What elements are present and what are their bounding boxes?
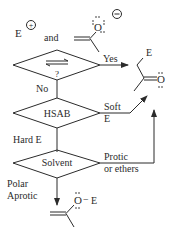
o-product-e: E: [91, 195, 97, 206]
enolate-oxygen: O: [94, 21, 102, 33]
hsab-label: HSAB: [44, 108, 71, 119]
plus-charge-sign: +: [29, 21, 34, 30]
no-label: No: [36, 83, 48, 94]
hard-e-label: Hard E: [13, 134, 42, 145]
flowchart: E + and O ? Yes No E O: [0, 0, 179, 230]
decision-hsab: HSAB: [13, 98, 100, 128]
soft-e-label: E: [104, 113, 110, 124]
enolate-structure: O: [74, 10, 122, 53]
o-product-oxygen: O: [74, 194, 82, 206]
soft-label: Soft: [104, 101, 121, 112]
or-ethers-label: or ethers: [104, 163, 139, 174]
protic-label: Protic: [104, 151, 128, 162]
decision-equilibrium: ?: [13, 50, 100, 80]
o-e-bond: −: [83, 194, 89, 205]
c-alkylation-product: E O: [134, 47, 165, 91]
electrophile: E +: [15, 21, 36, 40]
c-product-oxygen: O: [157, 73, 165, 85]
decision-solvent: Solvent: [13, 150, 100, 178]
yes-label: Yes: [103, 53, 118, 64]
and-label: and: [44, 32, 58, 43]
electrophile-label: E: [15, 27, 22, 39]
solvent-label: Solvent: [42, 157, 73, 168]
polar-label: Polar: [7, 178, 29, 189]
question-mark: ?: [55, 69, 59, 79]
aprotic-label: Aprotic: [7, 190, 38, 201]
c-product-e: E: [146, 47, 152, 58]
